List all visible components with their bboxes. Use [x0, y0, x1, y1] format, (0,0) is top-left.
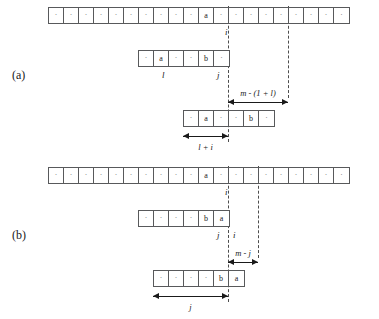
cell-label: · [145, 53, 148, 62]
cell-label: · [145, 10, 148, 19]
measure-label-l-plus-i: l + i [183, 142, 228, 152]
cell-filler: · [94, 168, 109, 183]
cell-filler: · [304, 8, 319, 23]
cell-label: · [190, 273, 193, 282]
cell-filler: · [79, 168, 94, 183]
cell-filler: · [184, 211, 199, 226]
cell-label: · [115, 170, 118, 179]
text-string-row-a: ··········a········· [48, 7, 350, 24]
cell-filler: · [244, 8, 259, 23]
cell-filler: · [109, 168, 124, 183]
cell-label: · [310, 170, 313, 179]
cell-label: · [340, 10, 343, 19]
cell-label: a [204, 115, 208, 123]
cell-label: · [100, 170, 103, 179]
cell-filler: · [64, 168, 79, 183]
cell-label: · [250, 170, 253, 179]
cell-filler: · [319, 168, 334, 183]
cell-filler: · [214, 111, 229, 126]
cell-label: b [204, 215, 208, 223]
cell-label: b [204, 55, 208, 63]
cell-label: · [250, 10, 253, 19]
cell-filler: · [229, 8, 244, 23]
cell-label: a [235, 275, 239, 283]
cell-filler: · [214, 8, 229, 23]
cell-filler: · [49, 168, 64, 183]
cell-label: · [175, 273, 178, 282]
index-label-i-a-text: i [225, 27, 228, 37]
cell-label: a [159, 55, 163, 63]
cell-label: · [175, 10, 178, 19]
cell-filler: · [64, 8, 79, 23]
cell-filler: · [139, 51, 154, 66]
cell-filler: · [139, 168, 154, 183]
arrowhead-left-icon [228, 259, 234, 265]
cell-label: · [160, 10, 163, 19]
cell-filler: · [154, 271, 169, 286]
arrowhead-left-icon [228, 99, 234, 105]
cell-label: · [85, 170, 88, 179]
pattern-row-before-shift-a: ·a··b· [138, 50, 230, 67]
figure-root: (a) ··········a········· i ·a··b· l j m … [0, 0, 379, 319]
cell-filler: · [244, 168, 259, 183]
cell-filler: · [169, 51, 184, 66]
cell-filler: · [229, 168, 244, 183]
cell-filler: · [319, 8, 334, 23]
cell-label: · [235, 170, 238, 179]
cell-label: · [235, 113, 238, 122]
cell-label: · [235, 10, 238, 19]
cell-label: b [219, 275, 223, 283]
cell-filler: · [154, 168, 169, 183]
cell-filler: · [274, 8, 289, 23]
cell-b: b [199, 211, 214, 226]
cell-label: · [115, 10, 118, 19]
cell-label: · [295, 10, 298, 19]
cell-label: · [295, 170, 298, 179]
cell-label: b [249, 115, 253, 123]
measure-arrow-l-plus-i [183, 132, 228, 141]
cell-a: a [199, 111, 214, 126]
cell-filler: · [169, 168, 184, 183]
panel-label-b: (b) [12, 228, 26, 243]
index-label-i-b-text: i [225, 187, 228, 197]
cell-b: b [244, 111, 259, 126]
cell-filler: · [124, 168, 139, 183]
cell-filler: · [184, 271, 199, 286]
cell-label: · [175, 170, 178, 179]
arrowhead-left-icon [183, 133, 189, 139]
cell-label: · [175, 53, 178, 62]
cell-label: · [190, 170, 193, 179]
cell-label: · [55, 10, 58, 19]
measure-arrow-j [153, 292, 228, 301]
cell-filler: · [259, 168, 274, 183]
cell-label: · [145, 213, 148, 222]
cell-a: a [154, 51, 169, 66]
cell-filler: · [139, 8, 154, 23]
cell-filler: · [229, 111, 244, 126]
cell-label: · [190, 213, 193, 222]
measure-bar [228, 102, 288, 103]
cell-label: · [325, 10, 328, 19]
panel-label-a: (a) [12, 68, 25, 83]
index-label-j-a-pattern: j [217, 70, 220, 80]
cell-filler: · [334, 8, 349, 23]
measure-label-j: j [153, 302, 228, 312]
cell-filler: · [109, 8, 124, 23]
cell-a: a [199, 8, 214, 23]
cell-filler: · [214, 51, 229, 66]
cell-label: a [204, 172, 208, 180]
cell-label: · [280, 10, 283, 19]
cell-filler: · [304, 168, 319, 183]
cell-a: a [199, 168, 214, 183]
cell-a: a [229, 271, 244, 286]
measure-bar [153, 296, 228, 297]
cell-label: · [325, 170, 328, 179]
arrowhead-right-icon [222, 293, 228, 299]
cell-b: b [214, 271, 229, 286]
cell-filler: · [184, 168, 199, 183]
cell-label: · [130, 10, 133, 19]
text-string-row-b: ··········a········· [48, 167, 350, 184]
cell-filler: · [289, 8, 304, 23]
cell-filler: · [79, 8, 94, 23]
pattern-row-after-shift-b: ····ba [153, 270, 245, 287]
